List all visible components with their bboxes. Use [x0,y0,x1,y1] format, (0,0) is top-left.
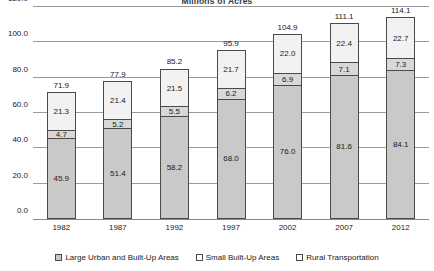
bar-segment[interactable]: 22.4 [330,23,359,63]
bar-segment[interactable]: 81.6 [330,75,359,219]
bar-segment[interactable]: 76.0 [273,85,302,219]
plot-area: 0.020.040.060.080.0100.0120.0 45.94.721.… [33,7,429,219]
chart-legend: Large Urban and Built-Up AreasSmall Buil… [0,253,434,262]
y-axis-tick-label: 120.0 [8,0,28,3]
bar-total-label: 85.2 [167,57,183,66]
bar-group[interactable]: 58.25.521.5 [160,69,189,219]
y-axis-tick-label: 40.0 [12,135,28,144]
x-axis-tick-label: 1997 [222,223,240,232]
bar-group[interactable]: 51.45.221.4 [103,81,132,219]
bar-total-label: 111.1 [335,12,354,21]
legend-swatch-icon [296,254,303,261]
bar-segment[interactable]: 58.2 [160,116,189,219]
bar-segment[interactable]: 21.3 [47,92,76,130]
legend-item[interactable]: Large Urban and Built-Up Areas [55,253,178,262]
legend-item[interactable]: Rural Transportation [296,253,378,262]
bar-total-label: 71.9 [53,81,69,90]
bar-segment[interactable]: 6.2 [217,88,246,99]
stacked-column-chart: Millions of Acres 0.020.040.060.080.0100… [0,0,434,271]
bar-segment[interactable]: 45.9 [47,138,76,219]
bar-segment[interactable]: 21.5 [160,69,189,107]
bar-segment[interactable]: 51.4 [103,128,132,219]
bar-segment[interactable]: 21.7 [217,50,246,88]
legend-swatch-icon [55,254,62,261]
y-axis-tick-label: 20.0 [12,170,28,179]
x-axis-line [33,219,429,220]
bar-segment[interactable]: 22.0 [273,34,302,73]
bar-segment[interactable]: 7.3 [386,58,415,71]
bar-segment[interactable]: 22.7 [386,17,415,57]
x-axis-tick-label: 1992 [166,223,184,232]
bar-segment[interactable]: 6.9 [273,73,302,85]
bar-group[interactable]: 76.06.922.0 [273,34,302,219]
legend-label: Small Built-Up Areas [206,253,279,262]
bar-total-label: 104.9 [278,23,298,32]
bar-group[interactable]: 45.94.721.3 [47,92,76,219]
bar-group[interactable]: 81.67.122.4 [330,23,359,219]
x-axis-tick-label: 2012 [392,223,410,232]
x-axis-tick-label: 1982 [52,223,70,232]
x-axis-tick-label: 2002 [279,223,297,232]
y-axis-tick-label: 80.0 [12,64,28,73]
bar-segment[interactable]: 21.4 [103,81,132,119]
x-axis-tick-label: 1987 [109,223,127,232]
bar-total-label: 114.1 [391,6,410,15]
bar-segment[interactable]: 7.1 [330,62,359,75]
y-axis-tick-label: 100.0 [8,29,28,38]
legend-label: Large Urban and Built-Up Areas [65,253,178,262]
bar-group[interactable]: 84.17.322.7 [386,17,415,219]
bar-series-container: 45.94.721.371.951.45.221.477.958.25.521.… [33,7,429,219]
y-axis-tick-label: 0.0 [17,206,28,215]
bar-total-label: 77.9 [110,70,126,79]
legend-label: Rural Transportation [306,253,378,262]
y-axis-tick-label: 60.0 [12,100,28,109]
legend-swatch-icon [196,254,203,261]
x-axis: 1982198719921997200220072012 [33,223,429,237]
bar-group[interactable]: 68.06.221.7 [217,50,246,219]
bar-segment[interactable]: 84.1 [386,70,415,219]
bar-total-label: 95.9 [223,39,239,48]
x-axis-tick-label: 2007 [335,223,353,232]
bar-segment[interactable]: 5.5 [160,106,189,116]
bar-segment[interactable]: 68.0 [217,99,246,219]
legend-item[interactable]: Small Built-Up Areas [196,253,279,262]
bar-segment[interactable]: 4.7 [47,130,76,138]
bar-segment[interactable]: 5.2 [103,119,132,128]
